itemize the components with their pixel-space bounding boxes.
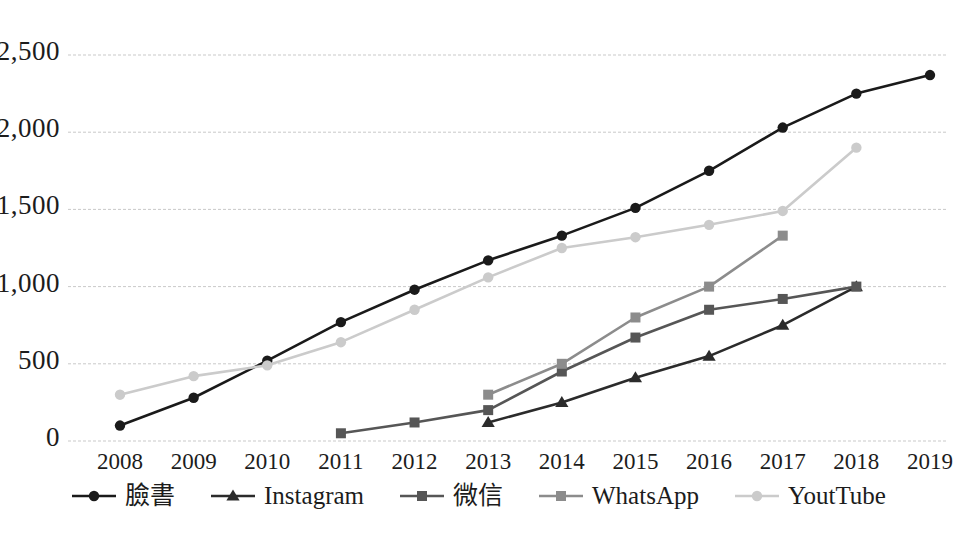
data-point-marker (851, 88, 861, 98)
chart-legend: 臉書Instagram微信WhatsAppYoutTube (0, 483, 956, 508)
x-tick-label: 2019 (885, 449, 956, 475)
y-tick-label: 2,000 (0, 113, 60, 144)
data-point-marker (557, 359, 567, 369)
series-5 (115, 142, 862, 399)
data-point-marker (483, 390, 493, 400)
data-point-marker (557, 230, 567, 240)
data-point-marker (630, 312, 640, 322)
series-line (120, 75, 930, 425)
square-marker-icon (537, 486, 585, 506)
data-point-marker (630, 203, 640, 213)
data-point-marker (417, 491, 427, 501)
legend-item-label: WhatsApp (592, 483, 699, 508)
square-marker-icon (398, 486, 446, 506)
circle-marker-icon (70, 486, 118, 506)
data-point-marker (776, 319, 789, 330)
data-point-marker (262, 360, 272, 370)
y-tick-label: 0 (46, 422, 60, 453)
legend-item-label: YoutTube (788, 483, 886, 508)
data-point-marker (336, 317, 346, 327)
data-point-marker (630, 232, 640, 242)
legend-item-label: Instagram (264, 483, 364, 508)
data-point-marker (188, 371, 198, 381)
data-point-marker (704, 220, 714, 230)
data-point-marker (89, 490, 99, 500)
data-point-marker (115, 389, 125, 399)
data-point-marker (483, 272, 493, 282)
data-point-marker (778, 206, 788, 216)
data-point-marker (925, 70, 935, 80)
data-point-marker (752, 490, 762, 500)
series-line (120, 148, 856, 395)
legend-item-label: 臉書 (125, 483, 175, 508)
data-point-marker (778, 122, 788, 132)
legend-item[interactable]: 臉書 (70, 483, 175, 508)
data-point-marker (556, 491, 566, 501)
legend-item[interactable]: 微信 (398, 483, 503, 508)
data-point-marker (557, 243, 567, 253)
legend-item[interactable]: Instagram (209, 483, 364, 508)
data-point-marker (851, 142, 861, 152)
y-tick-label: 1,500 (0, 190, 60, 221)
data-point-marker (483, 405, 493, 415)
series-line (488, 287, 856, 423)
data-point-marker (630, 333, 640, 343)
data-point-marker (704, 166, 714, 176)
data-point-marker (409, 305, 419, 315)
data-point-marker (704, 305, 714, 315)
diamond-marker-icon (733, 486, 781, 506)
data-point-marker (851, 282, 861, 292)
line-chart: 05001,0001,5002,0002,500 200820092010201… (0, 0, 956, 550)
legend-item-label: 微信 (453, 483, 503, 508)
data-point-marker (336, 428, 346, 438)
y-tick-label: 2,500 (0, 36, 60, 67)
data-point-marker (188, 393, 198, 403)
data-point-marker (778, 231, 788, 241)
data-point-marker (409, 284, 419, 294)
data-point-marker (115, 420, 125, 430)
data-point-marker (778, 294, 788, 304)
data-point-marker (410, 417, 420, 427)
y-tick-label: 1,000 (0, 268, 60, 299)
legend-item[interactable]: WhatsApp (537, 483, 699, 508)
data-point-marker (704, 282, 714, 292)
data-point-marker (483, 255, 493, 265)
data-point-marker (336, 337, 346, 347)
triangle-marker-icon (209, 486, 257, 506)
legend-item[interactable]: YoutTube (733, 483, 886, 508)
y-tick-label: 500 (18, 345, 60, 376)
series-1 (115, 70, 935, 431)
